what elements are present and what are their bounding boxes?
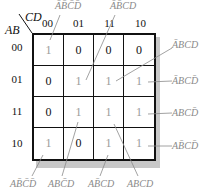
annotation-term-bottom-4: ABCD [127,178,153,189]
annotation-term-right-1: ĀBCD [172,39,198,50]
annotation-term-bottom-3: AB̄CD [88,178,114,189]
annotation-term-right-2: ĀBCD̄ [172,75,198,86]
annotation-term-right-4: AB̄CD̄ [172,140,198,151]
annotation-term-bottom-1: AB̄C̄D̄ [10,178,36,189]
diagonal-divider [19,14,32,33]
annotation-term-right-3: ABCD̄ [172,107,198,118]
annotation-term-top-1: ĀB̄C̄D̄ [55,0,81,11]
annotation-leader-lines [0,0,204,194]
annotation-term-top-2: ĀB̄CD [110,0,136,11]
annotation-term-bottom-2: ABC̄D [48,178,74,189]
